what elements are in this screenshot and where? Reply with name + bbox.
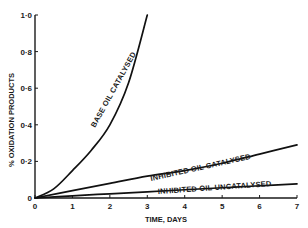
x-tick-label: 7 [295,202,300,211]
x-tick-label: 0 [33,202,38,211]
y-axis-title: % OXIDATION PRODUCTS [7,73,16,167]
y-tick-label: 0·8 [20,48,32,57]
y-tick-label: 0·6 [20,84,32,93]
x-tick-label: 3 [145,202,150,211]
y-tick-label: 0·2 [20,157,32,166]
y-tick-label: 1·0 [20,11,32,20]
x-tick-label: 1 [70,202,75,211]
x-tick-label: 4 [182,202,187,211]
x-axis-title: TIME, DAYS [145,215,187,224]
x-tick-label: 2 [108,202,113,211]
x-tick-label: 6 [257,202,262,211]
oxidation-chart: 00·20·40·60·81·001234567 % OXIDATION PRO… [0,0,308,228]
x-tick-label: 5 [220,202,225,211]
label-inhibited-oil-uncatalysed: INHIBITED OIL UNCATALYSED [158,179,273,196]
y-tick-label: 0·4 [20,121,32,130]
label-inhibited-oil-catalysed: INHIBITED OIL CATALYSED [149,152,252,183]
curve-base-oil-catalysed [35,15,147,198]
